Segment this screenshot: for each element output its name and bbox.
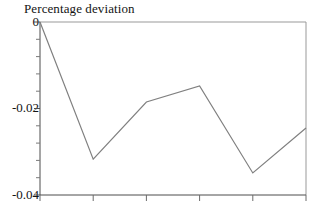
axis-frame — [40, 22, 306, 195]
chart-figure: Percentage deviation 0 -0.02 -0.04 — [0, 0, 313, 208]
data-series-line — [40, 22, 306, 173]
plot-area — [0, 0, 313, 208]
x-axis-major-ticks — [40, 195, 306, 201]
y-axis-major-ticks — [34, 22, 40, 195]
